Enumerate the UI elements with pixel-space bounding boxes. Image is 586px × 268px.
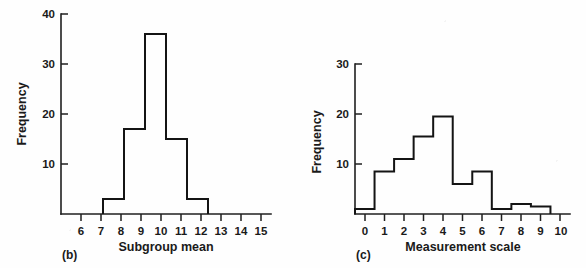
panel-c-xtick-label-3: 3: [420, 225, 426, 237]
panel-c-xtick-label-5: 5: [459, 225, 466, 237]
panel-b-ytick-label-10: 10: [42, 158, 55, 170]
panel-b-ytick-label-30: 30: [42, 58, 55, 70]
histogram-panel-c: 30 20 10 0 1 2 3 4 5 6 7 8 9 10 Measurem…: [293, 0, 586, 268]
panel-c-xtick-label-1: 1: [381, 225, 388, 237]
panel-c-x-axis-title: Measurement scale: [405, 240, 520, 254]
panel-b-xtick-label-8: 8: [118, 225, 125, 237]
panel-b-histogram-outline: [103, 34, 208, 214]
panel-b-xtick-label-11: 11: [175, 225, 188, 237]
panel-c-xtick-label-9: 9: [537, 225, 543, 237]
panel-c-y-axis-title: Frequency: [310, 110, 324, 173]
panel-b-xtick-label-9: 9: [138, 225, 144, 237]
figure-root: 40 30 20 10 6 7 8 9 10 11 12 13 14 15 Su…: [0, 0, 586, 268]
panel-c-plot: 30 20 10 0 1 2 3 4 5 6 7 8 9 10 Measurem…: [293, 0, 586, 268]
panel-c-xtick-label-8: 8: [518, 225, 525, 237]
panel-c-xtick-label-6: 6: [479, 225, 485, 237]
panel-b-xtick-label-10: 10: [155, 225, 168, 237]
panel-c-histogram-outline: [355, 117, 550, 215]
panel-c-ytick-label-10: 10: [336, 158, 349, 170]
panel-b-xtick-label-15: 15: [255, 225, 268, 237]
panel-c-ytick-label-30: 30: [336, 58, 349, 70]
panel-c-xtick-label-7: 7: [498, 225, 504, 237]
panel-b-ytick-label-40: 40: [42, 8, 55, 20]
panel-c-xtick-label-10: 10: [555, 225, 568, 237]
panel-c-ytick-label-20: 20: [336, 108, 349, 120]
panel-b-plot: 40 30 20 10 6 7 8 9 10 11 12 13 14 15 Su…: [0, 0, 293, 268]
panel-b-ytick-label-20: 20: [42, 108, 55, 120]
histogram-panel-b: 40 30 20 10 6 7 8 9 10 11 12 13 14 15 Su…: [0, 0, 293, 268]
panel-b-y-axis-title: Frequency: [15, 82, 29, 145]
panel-b-xtick-label-14: 14: [235, 225, 248, 237]
panel-b-x-axis-title: Subgroup mean: [118, 240, 213, 254]
panel-b-xtick-label-7: 7: [98, 225, 104, 237]
panel-b-label: (b): [62, 248, 77, 262]
panel-c-xtick-label-2: 2: [401, 225, 407, 237]
panel-b-xtick-label-6: 6: [78, 225, 84, 237]
panel-c-xtick-label-0: 0: [362, 225, 368, 237]
panel-b-xtick-label-13: 13: [215, 225, 228, 237]
panel-c-label: (c): [356, 248, 371, 262]
panel-c-xtick-label-4: 4: [440, 225, 447, 237]
panel-b-xtick-label-12: 12: [195, 225, 208, 237]
